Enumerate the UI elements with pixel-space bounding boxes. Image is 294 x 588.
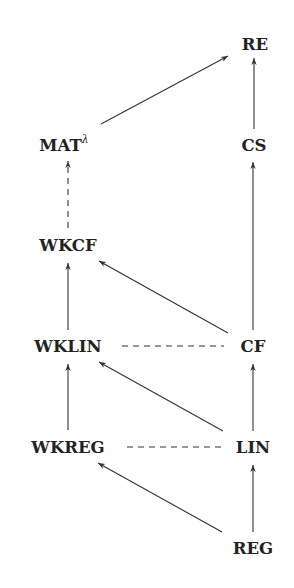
- node-wkcf: WKCF: [38, 236, 97, 255]
- node-cs: CS: [241, 136, 266, 155]
- node-label: CS: [241, 136, 266, 155]
- edge-mat-to-re: [101, 56, 228, 124]
- edge-layer: [68, 56, 254, 532]
- hasse-diagram: RECSMATλWKCFWKLINCFWKREGLINREG: [0, 0, 294, 588]
- node-label: WKLIN: [33, 337, 101, 356]
- node-lin: LIN: [236, 438, 270, 457]
- node-label: REG: [233, 539, 273, 558]
- node-re: RE: [242, 35, 268, 54]
- node-label: LIN: [236, 438, 270, 457]
- edge-reg-to-wkreg: [98, 463, 222, 532]
- node-mat: MATλ: [39, 133, 88, 155]
- node-label: WKREG: [30, 438, 104, 457]
- node-cf: CF: [241, 337, 266, 356]
- node-layer: RECSMATλWKCFWKLINCFWKREGLINREG: [30, 35, 273, 558]
- node-superscript: λ: [81, 133, 89, 146]
- node-wkreg: WKREG: [30, 438, 104, 457]
- edge-cf-to-wkcf: [99, 261, 228, 333]
- node-label: CF: [241, 337, 266, 356]
- node-wklin: WKLIN: [33, 337, 101, 356]
- edge-lin-to-wklin: [99, 362, 223, 431]
- node-label: RE: [242, 35, 268, 54]
- node-label: WKCF: [38, 236, 97, 255]
- node-reg: REG: [233, 539, 273, 558]
- node-label: MAT: [39, 136, 82, 155]
